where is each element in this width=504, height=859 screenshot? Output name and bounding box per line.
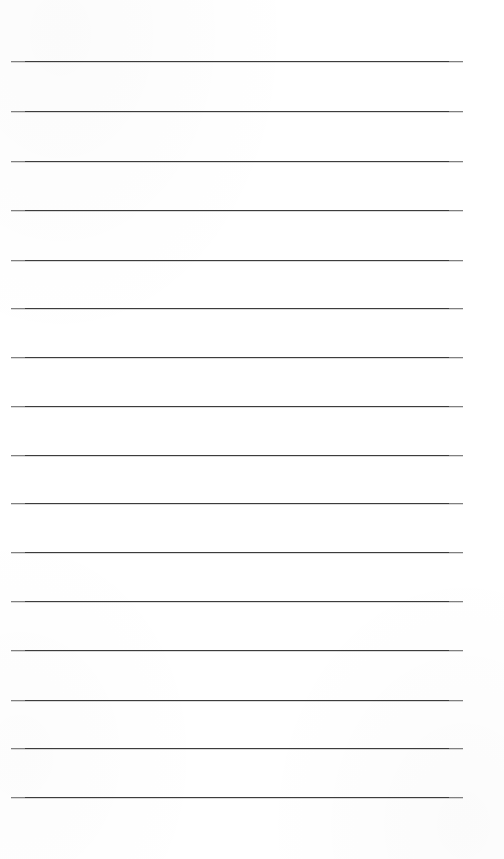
rule-line <box>11 260 463 261</box>
rule-line <box>11 61 463 62</box>
rule-line <box>11 650 463 651</box>
rule-line <box>11 455 463 456</box>
rule-line-layer <box>0 0 504 859</box>
rule-line <box>11 111 463 112</box>
rule-line <box>11 748 463 749</box>
rule-line <box>11 357 463 358</box>
ruled-paper-page <box>0 0 504 859</box>
rule-line <box>11 161 463 162</box>
rule-line <box>11 601 463 602</box>
rule-line <box>11 308 463 309</box>
rule-line <box>11 552 463 553</box>
rule-line <box>11 700 463 701</box>
rule-line <box>11 210 463 211</box>
rule-line <box>11 406 463 407</box>
rule-line <box>11 503 463 504</box>
rule-line <box>11 797 463 798</box>
